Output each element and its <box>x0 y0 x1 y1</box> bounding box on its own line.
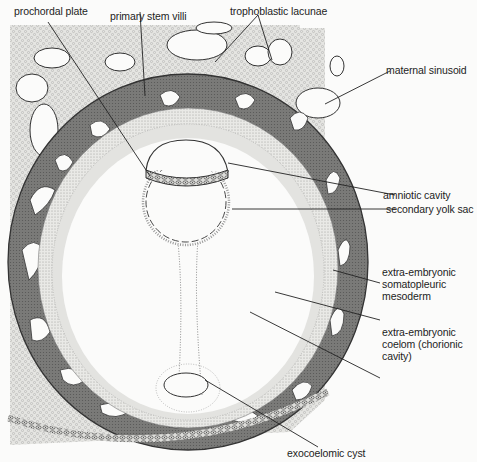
label-primary-stem-villi: primary stem villi <box>110 10 186 22</box>
label-line: somatopleuric <box>382 278 477 290</box>
label-maternal-sinusoid: maternal sinusoid <box>386 64 467 76</box>
secondary-yolk-sac <box>143 159 229 245</box>
label-line: extra-embryonic <box>382 326 477 338</box>
label-exocoelomic-cyst: exocoelomic cyst <box>287 447 365 459</box>
label-line: cavity) <box>382 350 477 362</box>
label-somatopleuric-mesoderm: extra-embryonic somatopleuric mesoderm <box>382 266 477 302</box>
label-prochordal-plate: prochordal plate <box>14 5 88 17</box>
label-secondary-yolk-sac: secondary yolk sac <box>386 203 474 215</box>
label-amniotic-cavity: amniotic cavity <box>383 189 450 201</box>
label-line: coelom (chorionic <box>382 338 477 350</box>
label-line: mesoderm <box>382 290 477 302</box>
label-line: extra-embryonic <box>382 266 477 278</box>
label-chorionic-cavity: extra-embryonic coelom (chorionic cavity… <box>382 326 477 362</box>
label-trophoblastic-lacunae: trophoblastic lacunae <box>230 5 327 17</box>
